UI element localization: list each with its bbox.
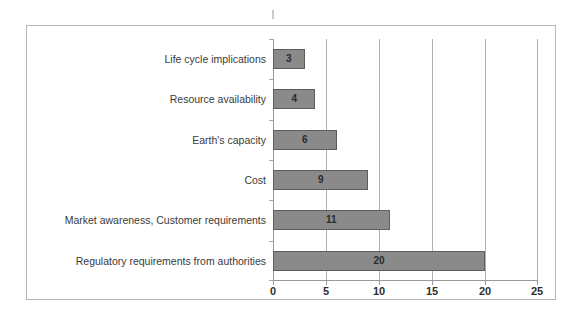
scan-artifact-mark [272, 10, 274, 19]
x-ticklabel-10: 10 [359, 285, 399, 297]
bar-value-label-market-awareness: 11 [273, 210, 390, 230]
category-label-earths-capacity: Earth's capacity [192, 120, 273, 160]
x-axis-tick-labels: 0 5 10 15 20 25 [273, 285, 538, 301]
bar-row-resource-availability[interactable]: 4 [273, 79, 538, 119]
bar-value-label-life-cycle-implications: 3 [273, 49, 305, 69]
plot-area: 3 4 6 9 11 20 [273, 39, 538, 281]
category-axis-labels: Life cycle implications Resource availab… [27, 39, 273, 281]
x-ticklabel-5: 5 [306, 285, 346, 297]
bar-row-regulatory-requirements[interactable]: 20 [273, 241, 538, 281]
category-label-life-cycle-implications: Life cycle implications [164, 39, 273, 79]
bar-row-market-awareness[interactable]: 11 [273, 200, 538, 240]
category-label-resource-availability: Resource availability [170, 79, 273, 119]
chart-frame: Life cycle implications Resource availab… [26, 25, 556, 300]
category-label-market-awareness: Market awareness, Customer requirements [65, 200, 273, 240]
bar-row-life-cycle-implications[interactable]: 3 [273, 39, 538, 79]
category-label-regulatory-requirements: Regulatory requirements from authorities [76, 241, 273, 281]
chart-figure: Life cycle implications Resource availab… [0, 0, 583, 317]
category-label-cost: Cost [244, 160, 273, 200]
bar-value-label-regulatory-requirements: 20 [273, 251, 485, 271]
bar-row-cost[interactable]: 9 [273, 160, 538, 200]
bar-value-label-earths-capacity: 6 [273, 130, 337, 150]
x-ticklabel-15: 15 [412, 285, 452, 297]
x-ticklabel-0: 0 [253, 285, 293, 297]
bar-value-label-cost: 9 [273, 170, 368, 190]
bar-value-label-resource-availability: 4 [273, 89, 315, 109]
bar-row-earths-capacity[interactable]: 6 [273, 120, 538, 160]
x-ticklabel-20: 20 [465, 285, 505, 297]
x-ticklabel-25: 25 [517, 285, 557, 297]
